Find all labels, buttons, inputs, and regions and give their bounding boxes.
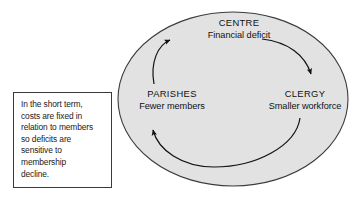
node-centre: CENTRE Financial deficit [183, 17, 295, 41]
node-parishes: PARISHES Fewer members [122, 88, 222, 112]
node-parishes-subtitle: Fewer members [122, 100, 222, 112]
node-centre-subtitle: Financial deficit [183, 29, 295, 41]
node-clergy-subtitle: Smaller workforce [256, 100, 354, 112]
note-box: In the short term, costs are fixed in re… [13, 92, 112, 188]
note-box-text: In the short term, costs are fixed in re… [21, 99, 105, 180]
node-centre-title: CENTRE [183, 17, 295, 29]
node-clergy-title: CLERGY [256, 88, 354, 100]
node-clergy: CLERGY Smaller workforce [256, 88, 354, 112]
node-parishes-title: PARISHES [122, 88, 222, 100]
